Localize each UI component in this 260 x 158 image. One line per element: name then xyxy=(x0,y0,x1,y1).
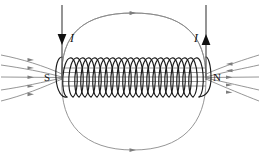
field-direction-arrow-icon xyxy=(28,66,35,69)
current-label-right: I xyxy=(194,32,198,44)
field-direction-arrow-icon xyxy=(28,76,35,79)
field-lines-left xyxy=(1,55,62,101)
north-pole-label: N xyxy=(213,72,221,83)
field-direction-arrow-icon xyxy=(130,11,137,15)
field-direction-arrow-icon xyxy=(28,85,35,88)
field-direction-arrow-icon xyxy=(226,90,233,93)
field-direction-arrow-icon xyxy=(130,148,137,152)
field-direction-arrow-icon xyxy=(28,93,35,97)
current-leads xyxy=(58,5,211,80)
current-label-left: I xyxy=(70,32,74,44)
arrow-down-icon xyxy=(58,34,67,45)
solenoid-field-diagram: S N I I xyxy=(0,0,260,158)
field-direction-arrow-icon xyxy=(226,76,233,79)
field-direction-arrow-icon xyxy=(28,58,35,62)
arrow-up-icon xyxy=(202,34,211,45)
lead-wire-left xyxy=(58,5,67,80)
south-pole-label: S xyxy=(44,72,50,83)
diagram-canvas xyxy=(0,0,260,158)
